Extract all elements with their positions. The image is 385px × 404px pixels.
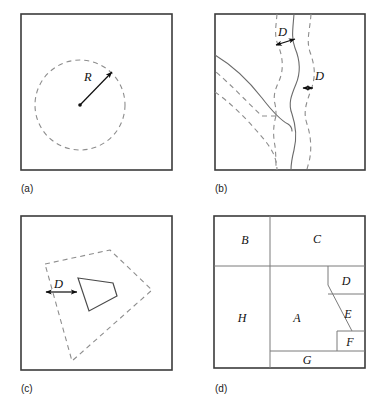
buffer-junction-pocket	[215, 71, 276, 116]
buffer-width-label-upper: D	[277, 25, 287, 39]
region-label-f: F	[345, 335, 354, 349]
region-label-b: B	[241, 233, 249, 247]
buffer-right-main	[305, 14, 314, 170]
panel-b-caption: (b)	[215, 183, 227, 194]
radius-label: R	[83, 70, 92, 84]
region-label-d: D	[341, 274, 351, 288]
buffer-width-label-right: D	[314, 69, 324, 83]
region-label-a: A	[292, 311, 301, 325]
buffer-width-arrow-upper	[276, 39, 295, 45]
buffer-left-main-lower	[274, 116, 276, 170]
panel-d: B C D A E F G H (d)	[214, 216, 365, 394]
region-label-h: H	[237, 311, 248, 325]
buffer-left-tributary	[215, 92, 277, 170]
region-label-e: E	[343, 307, 352, 321]
region-label-c: C	[313, 232, 322, 246]
buffer-adjacency-figure: R (a) D D (b) D	[0, 0, 385, 404]
panel-d-frame	[214, 216, 365, 368]
panel-b: D D (b)	[215, 14, 365, 194]
tributary-stream-line	[215, 55, 292, 131]
source-polygon	[78, 278, 117, 311]
panel-a-caption: (a)	[21, 183, 33, 194]
figure-root: R (a) D D (b) D	[0, 0, 385, 404]
panel-c: D (c)	[21, 216, 172, 394]
panel-c-caption: (c)	[21, 383, 33, 394]
buffer-distance-label: D	[53, 277, 63, 291]
panel-a: R (a)	[21, 14, 172, 194]
region-label-g: G	[303, 353, 312, 367]
main-stream-line	[290, 14, 299, 170]
panel-a-frame	[21, 14, 172, 170]
panel-d-caption: (d)	[215, 383, 227, 394]
